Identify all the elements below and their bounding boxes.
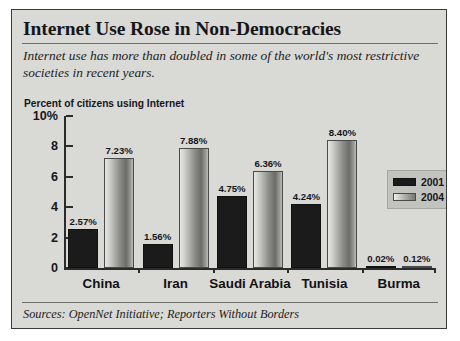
bar-iran-2004: 7.88%: [179, 148, 209, 268]
y-tick-label: 6: [51, 170, 58, 184]
source-note: Sources: OpenNet Initiative; Reporters W…: [23, 307, 299, 322]
y-tick-mark: [66, 176, 73, 178]
y-tick-mark: [66, 115, 73, 117]
bar-china-2001: 2.57%: [68, 229, 98, 268]
bar-iran-2001: 1.56%: [143, 244, 173, 268]
bar-burma-2001: 0.02%: [366, 266, 396, 268]
legend-item-2004: 2004: [393, 191, 442, 203]
y-tick-mark: [66, 206, 73, 208]
bar-tunisia-2001: 4.24%: [291, 204, 321, 268]
legend-label-2004: 2004: [421, 192, 444, 203]
y-tick-label: 2: [51, 231, 58, 245]
source-divider: [22, 302, 438, 303]
x-group-separator: [287, 268, 289, 273]
legend-label-2001: 2001: [421, 177, 444, 188]
bar-burma-2004: 0.12%: [402, 266, 432, 268]
bar-value-label: 2.57%: [70, 216, 97, 227]
category-label-tunisia: Tunisia: [301, 276, 347, 291]
chart-title: Internet Use Rose in Non-Democracies: [23, 18, 438, 40]
title-divider: [22, 43, 438, 44]
bar-value-label: 8.40%: [329, 127, 356, 138]
category-label-burma: Burma: [378, 276, 420, 291]
bar-value-label: 0.12%: [403, 253, 430, 264]
chart-subtitle: Internet use has more than doubled in so…: [23, 47, 431, 81]
bar-value-label: 0.02%: [367, 253, 394, 264]
legend-item-2001: 2001: [393, 176, 442, 188]
bar-saudi-arabia-2004: 6.36%: [253, 171, 283, 268]
y-tick-label: 8: [51, 139, 58, 153]
bar-value-label: 7.88%: [180, 135, 207, 146]
y-tick-label: 0: [51, 261, 58, 275]
plot-area: 0246810% 2.57%7.23%1.56%7.88%4.75%6.36%4…: [64, 116, 436, 268]
bar-value-label: 7.23%: [106, 145, 133, 156]
bar-value-label: 1.56%: [144, 231, 171, 242]
y-axis-title: Percent of citizens using Internet: [24, 98, 184, 109]
y-tick-mark: [66, 145, 73, 147]
category-label-saudi-arabia: Saudi Arabia: [209, 276, 290, 291]
category-label-china: China: [83, 276, 120, 291]
x-group-separator: [213, 268, 215, 273]
legend-swatch-icon-2004: [393, 193, 416, 201]
chart-legend: 2001 2004: [387, 170, 447, 209]
x-axis-line: [64, 268, 436, 270]
bar-value-label: 6.36%: [254, 158, 281, 169]
x-group-separator: [362, 268, 364, 273]
y-axis-line: [64, 116, 66, 268]
legend-swatch-icon-2001: [393, 178, 416, 186]
bar-china-2004: 7.23%: [104, 158, 134, 268]
bar-value-label: 4.24%: [293, 191, 320, 202]
x-axis-end-tick: [434, 268, 436, 273]
y-tick-label: 4: [51, 200, 58, 214]
chart-figure: Internet Use Rose in Non-Democracies Int…: [11, 9, 447, 329]
bar-tunisia-2004: 8.40%: [327, 140, 357, 268]
bar-value-label: 4.75%: [218, 183, 245, 194]
category-label-iran: Iran: [163, 276, 188, 291]
y-tick-label: 10%: [33, 109, 58, 123]
bar-saudi-arabia-2001: 4.75%: [217, 196, 247, 268]
x-group-separator: [138, 268, 140, 273]
